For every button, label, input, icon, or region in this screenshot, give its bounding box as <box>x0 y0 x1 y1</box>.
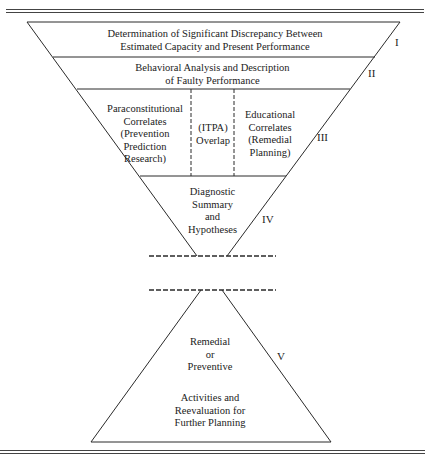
stage-1-line-1: Determination of Significant Discrepancy… <box>60 28 370 41</box>
stage-4-numeral: IV <box>262 213 274 225</box>
stage-5-upper-line-2: or <box>165 349 255 362</box>
paraconstitutional-line-2: Correlates <box>100 116 190 129</box>
stage-3-numeral: III <box>317 131 328 143</box>
paraconstitutional-line-5: Research) <box>100 153 190 166</box>
stage-4-line-2: Summary <box>170 199 255 212</box>
stage-1-line-2: Estimated Capacity and Present Performan… <box>60 41 370 54</box>
top-rule <box>6 10 424 13</box>
stage-1-text: Determination of Significant Discrepancy… <box>60 28 370 53</box>
stage-5-upper-line-3: Preventive <box>165 361 255 374</box>
bottom-rule <box>0 451 425 454</box>
stage-3-right-text: Educational Correlates (Remedial Plannin… <box>240 109 300 159</box>
stage-4-line-1: Diagnostic <box>170 186 255 199</box>
stage-5-lower-text: Activities and Reevaluation for Further … <box>160 392 260 430</box>
stage-4-text: Diagnostic Summary and Hypotheses <box>170 186 255 236</box>
itpa-line-1: (ITPA) <box>192 122 234 135</box>
stage-3-center-text: (ITPA) Overlap <box>192 122 234 147</box>
break-dashes <box>149 256 276 290</box>
stage-3-left-text: Paraconstitutional Correlates (Preventio… <box>100 103 190 166</box>
educational-line-4: Planning) <box>240 147 300 160</box>
stage-1-numeral: I <box>395 36 399 48</box>
paraconstitutional-line-4: Prediction <box>100 141 190 154</box>
stage-5-lower-line-3: Further Planning <box>160 417 260 430</box>
educational-line-3: (Remedial <box>240 134 300 147</box>
educational-line-1: Educational <box>240 109 300 122</box>
stage-5-lower-line-2: Reevaluation for <box>160 405 260 418</box>
stage-2-line-1: Behavioral Analysis and Description <box>80 62 345 75</box>
stage-5-numeral: V <box>277 350 285 362</box>
stage-5-lower-line-1: Activities and <box>160 392 260 405</box>
paraconstitutional-line-1: Paraconstitutional <box>100 103 190 116</box>
stage-2-text: Behavioral Analysis and Description of F… <box>80 62 345 87</box>
stage-4-line-3: and <box>170 211 255 224</box>
stage-2-line-2: of Faulty Performance <box>80 75 345 88</box>
stage-5-upper-text: Remedial or Preventive <box>165 336 255 374</box>
paraconstitutional-line-3: (Prevention <box>100 128 190 141</box>
stage-5-upper-line-1: Remedial <box>165 336 255 349</box>
stage-2-numeral: II <box>368 67 375 79</box>
itpa-line-2: Overlap <box>192 135 234 148</box>
educational-line-2: Correlates <box>240 122 300 135</box>
stage-4-line-4: Hypotheses <box>170 224 255 237</box>
